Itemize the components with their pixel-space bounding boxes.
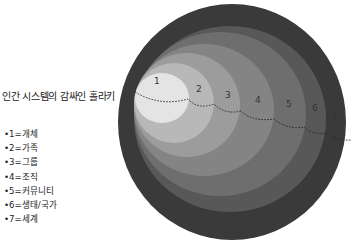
ring-1: [135, 73, 189, 123]
legend-item-6: •6=생태/국가: [4, 198, 57, 212]
ring-label-3: 3: [225, 90, 231, 100]
legend-item-2: •2=가족: [4, 141, 57, 155]
ring-label-5: 5: [286, 99, 292, 109]
ring-label-6: 6: [312, 103, 318, 113]
ring-label-7: 7: [332, 112, 338, 122]
diagram-title: 인간 시스템의 감싸인 홀라키: [2, 88, 115, 103]
legend-item-4: •4=조직: [4, 170, 57, 184]
legend-item-5: •5=커뮤니티: [4, 184, 57, 198]
legend-item-1: •1=개체: [4, 127, 57, 141]
legend: •1=개체 •2=가족 •3=그룹 •4=조직 •5=커뮤니티 •6=생태/국가…: [4, 127, 57, 226]
legend-item-3: •3=그룹: [4, 155, 57, 169]
ring-label-1: 1: [154, 76, 160, 86]
ring-label-2: 2: [196, 84, 202, 94]
legend-item-7: •7=세계: [4, 212, 57, 226]
ring-label-4: 4: [255, 95, 261, 105]
